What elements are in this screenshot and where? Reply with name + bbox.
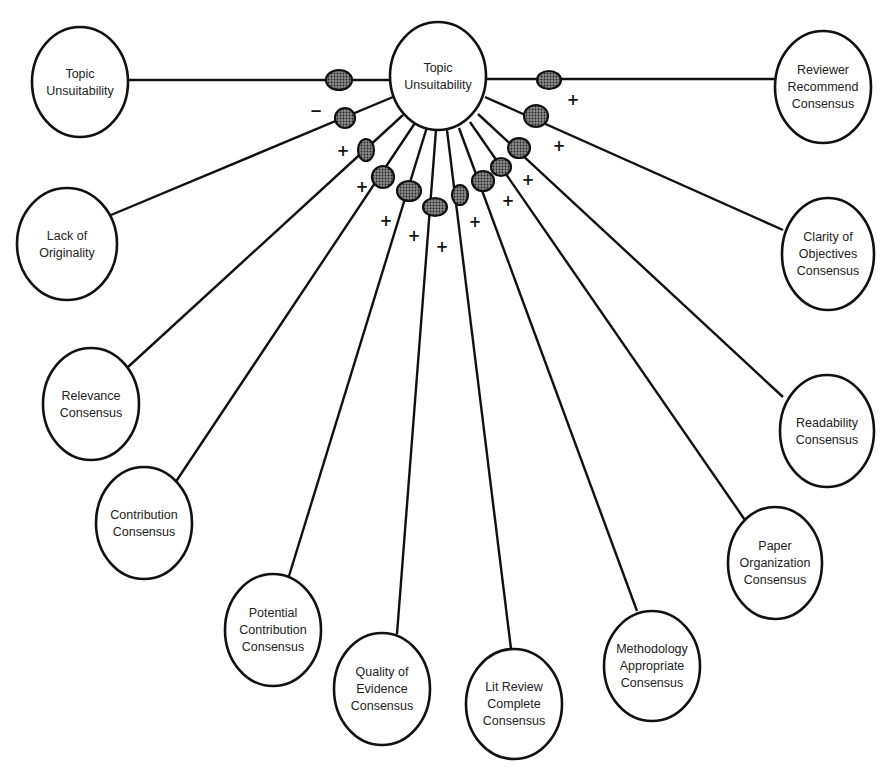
node-label: Objectives: [799, 247, 857, 261]
node-methodology: MethodologyAppropriateConsensus: [604, 611, 700, 721]
node-label: Paper: [758, 539, 791, 553]
link-marker-icon: [537, 71, 561, 89]
node-label: Unsuitability: [404, 78, 472, 92]
node-label: Quality of: [356, 665, 409, 679]
edge-paperorg: [470, 122, 747, 523]
node-circle: [43, 348, 139, 460]
node-paperorg: PaperOrganizationConsensus: [728, 507, 822, 619]
link-marker-icon: [335, 108, 355, 128]
node-label: Clarity of: [803, 230, 853, 244]
node-label: Evidence: [356, 682, 407, 696]
node-label: Consensus: [621, 676, 684, 690]
node-label: Consensus: [351, 699, 414, 713]
link-marker-icon: [491, 158, 511, 176]
node-label: Contribution: [239, 623, 306, 637]
node-label: Consensus: [483, 714, 546, 728]
node-label: Consensus: [797, 264, 860, 278]
node-originality: Lack ofOriginality: [17, 188, 117, 300]
node-topic: TopicUnsuitability: [32, 27, 128, 137]
node-label: Consensus: [792, 97, 855, 111]
edges-layer: [111, 79, 783, 649]
node-quality: Quality ofEvidenceConsensus: [334, 633, 430, 745]
node-relevance: RelevanceConsensus: [43, 348, 139, 460]
node-contribution: ContributionConsensus: [96, 467, 192, 579]
node-label: Topic: [65, 67, 94, 81]
positive-sign: +: [553, 137, 566, 155]
node-circle: [32, 27, 128, 137]
positive-sign: +: [356, 178, 369, 196]
node-potential: PotentialContributionConsensus: [225, 574, 321, 686]
node-label: Originality: [39, 246, 95, 260]
node-label: Organization: [740, 556, 811, 570]
node-label: Consensus: [796, 433, 859, 447]
node-label: Potential: [249, 606, 298, 620]
positive-sign: +: [469, 213, 482, 231]
node-label: Recommend: [788, 80, 859, 94]
node-circle: [17, 188, 117, 300]
node-label: Lack of: [47, 229, 88, 243]
nodes-layer: TopicUnsuitabilityLack ofOriginalityRele…: [17, 22, 874, 759]
node-label: Lit Review: [485, 680, 544, 694]
link-marker-icon: [508, 138, 530, 158]
node-label: Consensus: [744, 573, 807, 587]
negative-sign: −: [310, 102, 323, 120]
node-litreview: Lit ReviewCompleteConsensus: [466, 649, 562, 759]
edge-methodology: [459, 128, 637, 611]
node-circle: [780, 375, 874, 487]
link-marker-icon: [452, 185, 468, 205]
link-marker-icon: [372, 166, 394, 188]
node-label: Relevance: [61, 389, 120, 403]
node-reviewer: ReviewerRecommendConsensus: [775, 31, 871, 143]
node-circle: [390, 22, 486, 130]
positive-sign: +: [408, 227, 421, 245]
node-clarity: Clarity ofObjectivesConsensus: [782, 198, 874, 310]
positive-sign: +: [502, 192, 515, 210]
causal-diagram: TopicUnsuitabilityLack ofOriginalityRele…: [0, 0, 895, 773]
link-marker-icon: [472, 171, 494, 191]
node-circle: [96, 467, 192, 579]
link-marker-icon: [524, 105, 548, 127]
node-label: Consensus: [242, 640, 305, 654]
positive-sign: +: [337, 142, 350, 160]
positive-sign: +: [380, 212, 393, 230]
node-readability: ReadabilityConsensus: [780, 375, 874, 487]
positive-sign: +: [436, 238, 449, 256]
node-label: Complete: [487, 697, 541, 711]
node-label: Readability: [796, 416, 859, 430]
link-marker-icon: [358, 139, 374, 161]
node-label: Consensus: [60, 406, 123, 420]
node-center: TopicUnsuitability: [390, 22, 486, 130]
node-label: Contribution: [110, 508, 177, 522]
link-marker-icon: [397, 181, 421, 201]
link-marker-icon: [423, 198, 447, 216]
positive-sign: +: [522, 171, 535, 189]
node-label: Appropriate: [620, 659, 685, 673]
positive-sign: +: [567, 91, 580, 109]
link-marker-icon: [326, 70, 352, 90]
node-label: Topic: [423, 61, 452, 75]
node-label: Methodology: [616, 642, 688, 656]
node-label: Unsuitability: [46, 84, 114, 98]
node-label: Reviewer: [797, 63, 849, 77]
node-label: Consensus: [113, 525, 176, 539]
